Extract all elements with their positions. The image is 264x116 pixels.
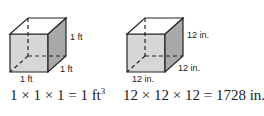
equation-text: 12 × 12 × 12 = 1728 in.: [123, 87, 264, 103]
cube-1ft-equation: 1 × 1 × 1 = 1 ft3: [10, 86, 105, 104]
cube-12in-height-label: 12 in.: [187, 30, 209, 40]
equation-exponent: 3: [101, 86, 106, 96]
cube-12in-width-label: 12 in.: [132, 74, 154, 84]
cube-1ft-shape: [10, 18, 66, 72]
equation-text: 1 × 1 × 1 = 1 ft: [10, 87, 101, 103]
cube-12in-equation: 12 × 12 × 12 = 1728 in.3: [123, 86, 264, 104]
cube-12in-shape: [127, 18, 183, 72]
cube-1ft-width-label: 1 ft: [20, 74, 33, 84]
cube-1ft-depth-label: 1 ft: [60, 64, 73, 74]
cube-12in-depth-label: 12 in.: [178, 63, 200, 73]
cube-1ft-height-label: 1 ft: [70, 32, 83, 42]
